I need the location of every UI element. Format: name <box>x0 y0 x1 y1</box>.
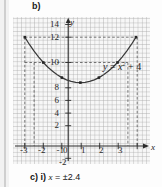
y-tick-label-neg2: -2 <box>59 158 67 167</box>
y-tick-label-4: 4 <box>50 109 59 118</box>
scan-gutter <box>0 0 9 187</box>
equation-annotation: y = x2 + 4 <box>103 61 141 72</box>
x-tick-label-1: 1 <box>81 146 86 155</box>
x-tick-label-2: 2 <box>99 146 104 155</box>
y-tick-label-12: 12 <box>46 33 59 42</box>
part-label-b: b) <box>32 1 41 11</box>
x-tick-label-neg2: -2 <box>38 146 46 155</box>
equation-lhs: y <box>103 61 107 72</box>
y-axis-label: y <box>70 17 74 27</box>
equation-exponent: 2 <box>123 61 126 67</box>
parabola-curve <box>25 37 136 82</box>
x-axis-arrow <box>143 144 149 149</box>
equation-tail: + 4 <box>128 61 141 72</box>
point-x-neg3 <box>24 36 27 39</box>
graph-plot-area <box>13 17 150 164</box>
x-tick-label-neg3: -3 <box>20 146 28 155</box>
parabola-graph-svg <box>13 17 150 164</box>
construction-lines-group <box>25 37 137 146</box>
point-x-0 <box>79 81 82 84</box>
x-tick-label-3: 3 <box>118 146 123 155</box>
x-tick-label-neg1: -1 <box>57 146 65 155</box>
y-tick-label-14: 14 <box>46 20 59 29</box>
gutter-divider-line <box>4 0 6 187</box>
graph-inner <box>13 17 150 164</box>
page-canvas: b) <box>0 0 162 187</box>
answer-value: = ±2.4 <box>55 172 80 182</box>
y-tick-label-10: 10 <box>46 58 59 67</box>
y-tick-label-6: 6 <box>50 96 59 105</box>
answer-variable: x <box>49 172 53 182</box>
point-x-neg2 <box>42 61 45 64</box>
point-x-neg1 <box>61 76 64 79</box>
answer-line: c) i) x = ±2.4 <box>30 172 80 182</box>
y-tick-label-2: 2 <box>50 121 59 130</box>
point-x-3 <box>135 36 138 39</box>
equation-equals: = <box>110 61 116 72</box>
point-x-1 <box>98 76 101 79</box>
y-tick-label-8: 8 <box>50 83 59 92</box>
answer-prefix: c) i) <box>30 172 46 182</box>
x-axis-label: x <box>151 142 155 152</box>
